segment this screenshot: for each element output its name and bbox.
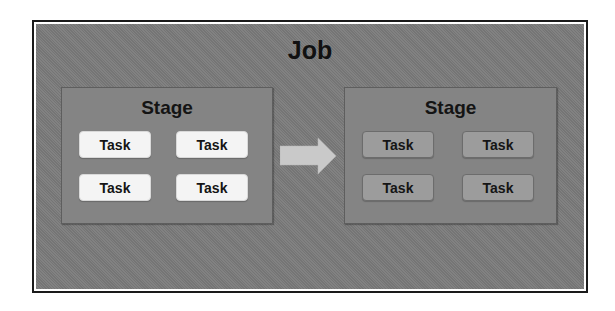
task-box: Task <box>462 174 534 201</box>
task-box: Task <box>462 131 534 158</box>
stage-title: Stage <box>345 97 556 119</box>
right-arrow-icon <box>280 138 336 174</box>
task-box: Task <box>362 174 434 201</box>
task-box: Task <box>79 174 151 201</box>
stage-2: Stage Task Task Task Task <box>344 87 557 224</box>
job-title: Job <box>36 36 584 65</box>
task-box: Task <box>176 131 248 158</box>
stage-title: Stage <box>62 97 272 119</box>
task-box: Task <box>79 131 151 158</box>
job-frame: Job Stage Task Task Task Task Stage Task… <box>32 20 588 293</box>
task-box: Task <box>176 174 248 201</box>
job-container: Job Stage Task Task Task Task Stage Task… <box>36 24 584 289</box>
task-box: Task <box>362 131 434 158</box>
stage-1: Stage Task Task Task Task <box>61 87 273 224</box>
